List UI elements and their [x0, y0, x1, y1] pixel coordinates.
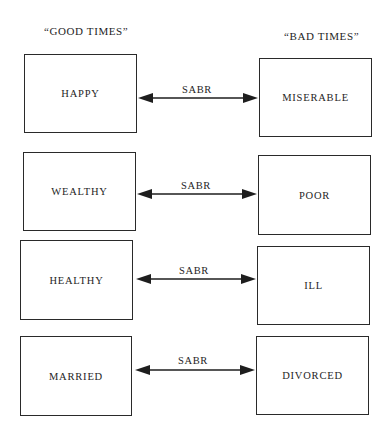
bad-times-header: “BAD TIMES”: [284, 30, 359, 42]
bad-label: MISERABLE: [282, 92, 349, 103]
bad-box-divorced: DIVORCED: [256, 336, 369, 415]
bad-label: POOR: [299, 190, 330, 201]
good-label: WEALTHY: [51, 186, 108, 197]
good-times-header: “GOOD TIMES”: [44, 25, 128, 37]
bad-box-miserable: MISERABLE: [259, 58, 372, 137]
double-arrow-icon: [137, 188, 257, 200]
good-box-wealthy: WEALTHY: [23, 152, 136, 231]
good-box-happy: HAPPY: [24, 54, 137, 133]
good-box-healthy: HEALTHY: [20, 240, 133, 320]
double-arrow-icon: [135, 364, 255, 376]
good-label: HAPPY: [61, 88, 99, 99]
double-arrow-icon: [138, 92, 258, 104]
good-label: HEALTHY: [49, 275, 103, 286]
bad-label: ILL: [304, 280, 323, 291]
good-label: MARRIED: [49, 371, 103, 382]
bad-label: DIVORCED: [282, 370, 343, 381]
good-box-married: MARRIED: [20, 336, 132, 416]
bad-box-ill: ILL: [257, 246, 370, 325]
bad-box-poor: POOR: [258, 155, 371, 235]
double-arrow-icon: [136, 273, 256, 285]
